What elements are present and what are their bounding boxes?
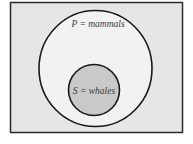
euler-diagram: P = mammals S = whales	[0, 0, 193, 144]
inner-set-label: S = whales	[73, 86, 116, 96]
set-s-whales: S = whales	[69, 65, 120, 116]
outer-set-label: P = mammals	[70, 19, 125, 29]
